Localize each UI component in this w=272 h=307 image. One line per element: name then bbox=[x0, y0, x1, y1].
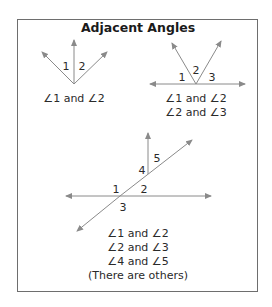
fig1-label-1: 1 bbox=[63, 60, 70, 73]
fig2-rays bbox=[150, 41, 245, 84]
fig3-label-5: 5 bbox=[154, 152, 161, 165]
fig3-caption-2: ∠2 and ∠3 bbox=[107, 241, 168, 255]
fig3-caption-1: ∠1 and ∠2 bbox=[107, 227, 168, 241]
fig3-label-3: 3 bbox=[120, 201, 127, 214]
fig3-note: (There are others) bbox=[88, 269, 188, 283]
fig2-caption-2: ∠2 and ∠3 bbox=[165, 106, 226, 120]
fig1-label-2: 2 bbox=[79, 60, 86, 73]
fig2-label-2: 2 bbox=[193, 64, 200, 77]
fig1-caption-1: ∠1 and ∠2 bbox=[43, 92, 104, 106]
fig3-label-4: 4 bbox=[139, 164, 146, 177]
fig1-rays bbox=[42, 40, 107, 84]
fig3-label-2: 2 bbox=[141, 183, 148, 196]
fig2-caption-1: ∠1 and ∠2 bbox=[165, 92, 226, 106]
fig2-label-1: 1 bbox=[179, 71, 186, 84]
fig3-caption-3: ∠4 and ∠5 bbox=[107, 255, 168, 269]
fig2-label-3: 3 bbox=[209, 71, 216, 84]
fig3-rays bbox=[66, 133, 211, 231]
fig3-label-1: 1 bbox=[113, 183, 120, 196]
